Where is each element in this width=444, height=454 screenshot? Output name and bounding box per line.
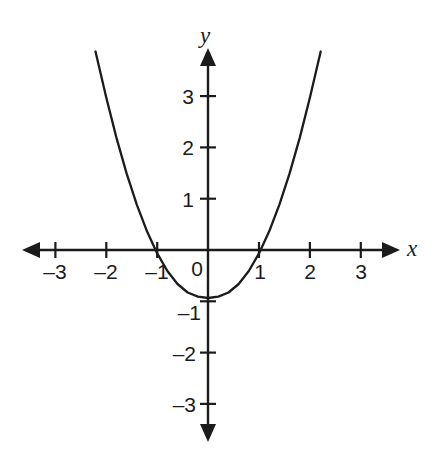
y-axis-up-arrowhead — [200, 48, 216, 66]
coordinate-plane-svg — [0, 0, 444, 454]
parabola-graph-figure: –3 –2 –1 1 2 3 0 3 2 1 –1 –2 –3 x y — [0, 0, 444, 454]
y-tick-label-1: 1 — [182, 189, 194, 210]
y-tick-label-neg1: –1 — [178, 302, 201, 323]
x-axis-right-arrowhead — [382, 242, 400, 258]
y-tick-label-3: 3 — [182, 86, 194, 107]
x-tick-label-3: 3 — [355, 261, 367, 282]
y-axis-label: y — [200, 24, 210, 47]
y-tick-label-neg3: –3 — [173, 394, 196, 415]
y-tick-label-2: 2 — [182, 137, 194, 158]
x-axis-label: x — [407, 237, 417, 260]
x-tick-label-1: 1 — [254, 261, 266, 282]
x-tick-label-neg2: –2 — [94, 261, 117, 282]
x-tick-label-2: 2 — [304, 261, 316, 282]
origin-label: 0 — [191, 258, 203, 279]
x-tick-label-neg3: –3 — [43, 261, 66, 282]
y-tick-label-neg2: –2 — [173, 343, 196, 364]
y-axis-down-arrowhead — [200, 424, 216, 442]
x-axis-left-arrowhead — [22, 242, 40, 258]
x-tick-label-neg1: –1 — [145, 261, 168, 282]
